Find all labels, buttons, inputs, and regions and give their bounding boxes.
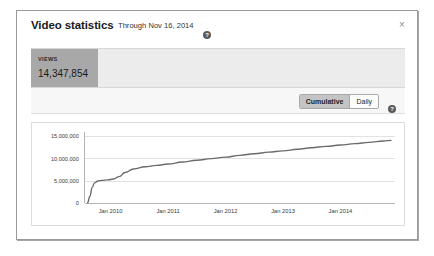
svg-text:Jan 2010: Jan 2010 bbox=[99, 208, 123, 214]
toolbar-help-icon[interactable]: ? bbox=[388, 96, 396, 114]
metric-bar: VIEWS 14,347,854 bbox=[31, 48, 405, 88]
video-statistics-dialog: Video statistics Through Nov 16, 2014 ? … bbox=[16, 10, 418, 240]
page-title: Video statistics bbox=[31, 19, 114, 31]
svg-text:Jan 2011: Jan 2011 bbox=[156, 208, 179, 214]
tab-cumulative[interactable]: Cumulative bbox=[300, 95, 350, 108]
chart-toolbar: Cumulative Daily ? bbox=[31, 88, 405, 114]
help-icon: ? bbox=[388, 105, 396, 113]
svg-text:10,000,000: 10,000,000 bbox=[51, 156, 79, 162]
tab-daily[interactable]: Daily bbox=[350, 95, 378, 108]
svg-text:Jan 2012: Jan 2012 bbox=[214, 208, 238, 214]
svg-text:15,000,000: 15,000,000 bbox=[51, 133, 79, 139]
chart-series-line bbox=[88, 140, 391, 202]
view-mode-segmented-control: Cumulative Daily bbox=[299, 94, 379, 109]
metric-tile-views[interactable]: VIEWS 14,347,854 bbox=[31, 49, 98, 87]
svg-text:Jan 2013: Jan 2013 bbox=[271, 208, 295, 214]
close-icon[interactable]: × bbox=[396, 19, 408, 31]
header-help-icon[interactable]: ? bbox=[203, 22, 211, 40]
chart-container: 05,000,00010,000,00015,000,000 Jan 2010J… bbox=[31, 122, 405, 226]
svg-text:0: 0 bbox=[76, 200, 79, 206]
dialog-header: Video statistics Through Nov 16, 2014 ? … bbox=[17, 11, 417, 43]
date-range-label: Through Nov 16, 2014 bbox=[118, 21, 194, 30]
help-icon: ? bbox=[203, 31, 211, 39]
metric-label: VIEWS bbox=[38, 56, 58, 62]
svg-text:Jan 2014: Jan 2014 bbox=[329, 208, 354, 214]
chart-axes bbox=[85, 132, 395, 204]
chart-x-axis-labels: Jan 2010Jan 2011Jan 2012Jan 2013Jan 2014 bbox=[99, 208, 353, 214]
svg-text:5,000,000: 5,000,000 bbox=[54, 178, 79, 184]
metric-value: 14,347,854 bbox=[38, 68, 88, 79]
chart-gridlines bbox=[85, 136, 395, 181]
chart-y-axis-labels: 05,000,00010,000,00015,000,000 bbox=[51, 133, 79, 206]
views-line-chart: 05,000,00010,000,00015,000,000 Jan 2010J… bbox=[32, 123, 404, 225]
